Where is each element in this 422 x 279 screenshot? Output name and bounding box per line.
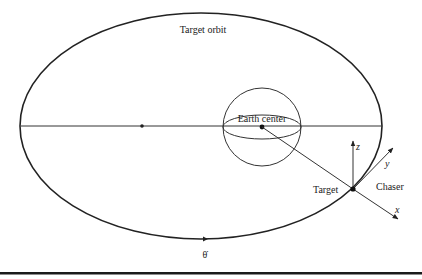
radial-line: [262, 127, 353, 189]
empty-focus-dot: [140, 124, 144, 128]
chaser-label: Chaser: [376, 181, 404, 192]
theta-dot-label: θ̇: [203, 249, 209, 260]
x-axis-arrow: [353, 189, 398, 219]
diagram-svg: Target orbit Earth center Target Chaser …: [0, 0, 422, 279]
y-axis-label: y: [384, 158, 390, 169]
z-axis-label: z: [355, 141, 360, 152]
bottom-rule: [0, 272, 422, 275]
earth-center-label: Earth center: [238, 113, 287, 124]
x-axis-label: x: [394, 204, 400, 215]
target-point: [350, 186, 355, 191]
orbit-label: Target orbit: [180, 24, 227, 35]
theta-dot-arrow-icon: [203, 237, 208, 242]
target-label: Target: [313, 184, 338, 195]
orbit-diagram: Target orbit Earth center Target Chaser …: [0, 0, 422, 279]
